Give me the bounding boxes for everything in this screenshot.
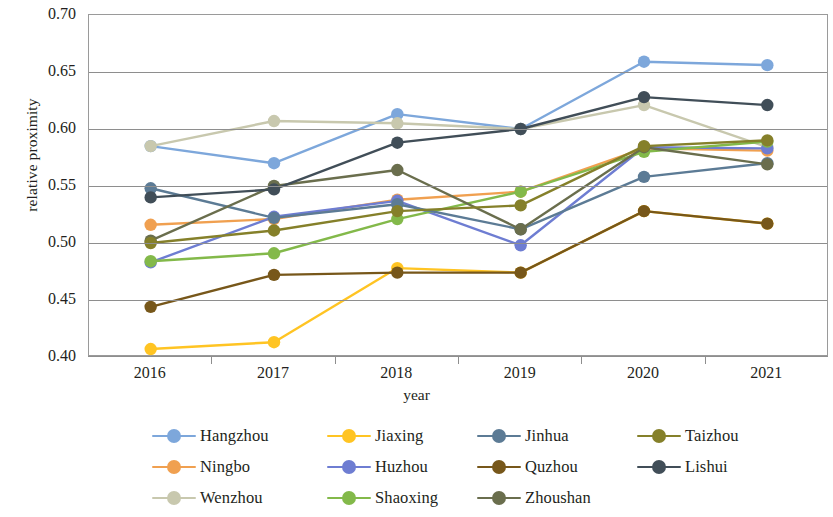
data-point — [638, 205, 650, 217]
legend-label: Ningbo — [200, 457, 250, 477]
data-point — [268, 115, 280, 127]
x-axis-tick-label: 2021 — [750, 364, 782, 382]
legend-label: Taizhou — [685, 426, 739, 446]
data-point — [391, 136, 403, 148]
legend-swatch-icon — [477, 429, 521, 443]
legend-item-lishui[interactable]: Lishui — [637, 451, 782, 482]
data-point — [268, 336, 280, 348]
series-line — [151, 211, 768, 307]
legend-item-ningbo[interactable]: Ningbo — [152, 451, 327, 482]
y-axis-tick-label: 0.40 — [48, 348, 76, 364]
legend-item-zhoushan[interactable]: Zhoushan — [477, 482, 637, 513]
legend-swatch-icon — [327, 491, 371, 505]
data-point — [391, 117, 403, 129]
data-point — [514, 239, 526, 251]
data-point — [391, 164, 403, 176]
data-point — [638, 171, 650, 183]
data-point — [761, 217, 773, 229]
data-point — [638, 91, 650, 103]
data-point — [144, 140, 156, 152]
series-line — [151, 211, 768, 349]
series-line — [151, 147, 768, 240]
y-axis-tick-label: 0.65 — [48, 63, 76, 79]
legend-swatch-icon — [637, 460, 681, 474]
legend-swatch-icon — [152, 491, 196, 505]
data-point — [638, 56, 650, 68]
data-point — [391, 266, 403, 278]
legend-item-jiaxing[interactable]: Jiaxing — [327, 420, 477, 451]
x-axis-tick — [458, 357, 459, 364]
legend-swatch-icon — [477, 460, 521, 474]
legend-label: Lishui — [685, 457, 728, 477]
y-axis-tick-label: 0.45 — [48, 291, 76, 307]
legend-label: Jiaxing — [375, 426, 423, 446]
legend-swatch-icon — [477, 491, 521, 505]
data-point — [391, 205, 403, 217]
y-axis-tick-label: 0.70 — [48, 6, 76, 22]
legend-swatch-icon — [152, 429, 196, 443]
legend-item-quzhou[interactable]: Quzhou — [477, 451, 637, 482]
x-axis-tick — [335, 357, 336, 364]
legend-label: Quzhou — [525, 457, 578, 477]
data-point — [144, 301, 156, 313]
legend-item-huzhou[interactable]: Huzhou — [327, 451, 477, 482]
data-point — [761, 134, 773, 146]
data-point — [268, 269, 280, 281]
gridline — [89, 300, 827, 301]
line-chart-figure: relative proximity 0.400.450.500.550.600… — [0, 0, 833, 517]
legend-item-hangzhou[interactable]: Hangzhou — [152, 420, 327, 451]
y-axis-tick-label: 0.55 — [48, 177, 76, 193]
data-point — [514, 186, 526, 198]
data-point — [144, 191, 156, 203]
data-point — [514, 223, 526, 235]
legend-label: Wenzhou — [200, 488, 263, 508]
data-point — [268, 212, 280, 224]
series-line — [151, 105, 768, 147]
y-axis-tick-labels: 0.400.450.500.550.600.650.70 — [0, 0, 84, 370]
legend-item-jinhua[interactable]: Jinhua — [477, 420, 637, 451]
x-axis-tick — [705, 357, 706, 364]
data-point — [144, 255, 156, 267]
data-point — [514, 266, 526, 278]
x-axis-tick — [581, 357, 582, 364]
chart-legend: HangzhouJiaxingJinhuaTaizhouNingboHuzhou… — [152, 420, 782, 513]
data-point — [761, 99, 773, 111]
data-point — [761, 158, 773, 170]
x-axis-tick-label: 2017 — [257, 364, 289, 382]
plot-area — [88, 14, 828, 356]
y-axis-tick-label: 0.60 — [48, 120, 76, 136]
legend-swatch-icon — [637, 429, 681, 443]
x-axis-title: year — [0, 386, 833, 404]
data-point — [268, 247, 280, 259]
gridline — [89, 129, 827, 130]
y-axis-tick-label: 0.50 — [48, 234, 76, 250]
legend-swatch-icon — [152, 460, 196, 474]
x-axis-tick-label: 2018 — [380, 364, 412, 382]
data-point — [268, 157, 280, 169]
x-axis-tick — [211, 357, 212, 364]
data-point — [761, 59, 773, 71]
gridline — [89, 186, 827, 187]
x-axis-tick-label: 2016 — [134, 364, 166, 382]
gridline — [89, 243, 827, 244]
legend-item-taizhou[interactable]: Taizhou — [637, 420, 782, 451]
series-jiaxing — [144, 205, 773, 355]
data-point — [144, 343, 156, 355]
legend-swatch-icon — [327, 460, 371, 474]
legend-label: Hangzhou — [200, 426, 269, 446]
legend-label: Zhoushan — [525, 488, 591, 508]
legend-swatch-icon — [327, 429, 371, 443]
legend-item-shaoxing[interactable]: Shaoxing — [327, 482, 477, 513]
legend-item-wenzhou[interactable]: Wenzhou — [152, 482, 327, 513]
data-point — [638, 140, 650, 152]
data-point — [514, 199, 526, 211]
x-axis-tick-label: 2019 — [504, 364, 536, 382]
legend-label: Huzhou — [375, 457, 428, 477]
legend-label: Jinhua — [525, 426, 569, 446]
legend-label: Shaoxing — [375, 488, 438, 508]
data-point — [144, 219, 156, 231]
data-point — [268, 224, 280, 236]
gridline — [89, 72, 827, 73]
x-axis-tick-label: 2020 — [627, 364, 659, 382]
